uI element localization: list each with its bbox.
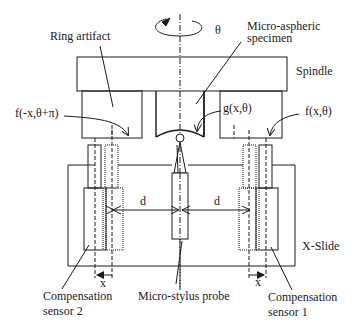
leader-ring-artifact <box>100 46 113 107</box>
comp-sensor-2-label-2: sensor 2 <box>43 305 83 318</box>
leader-sensor-1 <box>271 247 292 290</box>
compensation-sensor-1 <box>239 130 278 278</box>
f-left-label: f(-x,θ+π) <box>15 107 59 120</box>
leader-sensor-2 <box>62 245 89 289</box>
leader-probe <box>176 241 182 284</box>
theta-label: θ <box>215 24 221 37</box>
specimen-label-2: specimen <box>247 32 292 45</box>
diagram-drawing <box>0 0 361 333</box>
comp-sensor-1-label-2: sensor 1 <box>268 306 308 319</box>
g-label: g(x,θ) <box>223 102 252 115</box>
f-right-label: f(x,θ) <box>305 105 332 118</box>
leader-f-left <box>64 116 128 135</box>
d-left-label: d <box>140 195 146 208</box>
compensation-sensor-2 <box>84 130 123 278</box>
d-right-label: d <box>214 195 220 208</box>
leader-f-right <box>270 114 299 135</box>
comp-sensor-1-label-1: Compensation <box>268 291 337 304</box>
leader-specimen <box>196 42 241 104</box>
diagram-root: θ Ring artifact Micro-aspheric specimen … <box>0 0 361 333</box>
ring-artifact-label: Ring artifact <box>50 30 110 43</box>
comp-sensor-2-label-1: Compensation <box>43 290 112 303</box>
spindle-label: Spindle <box>296 65 333 78</box>
leader-g <box>197 111 221 131</box>
x-slide-label: X-Slide <box>302 240 339 253</box>
rotation-arrow-icon <box>156 18 202 36</box>
probe-label: Micro-stylus probe <box>138 290 230 303</box>
x-right-label: x <box>255 276 261 289</box>
